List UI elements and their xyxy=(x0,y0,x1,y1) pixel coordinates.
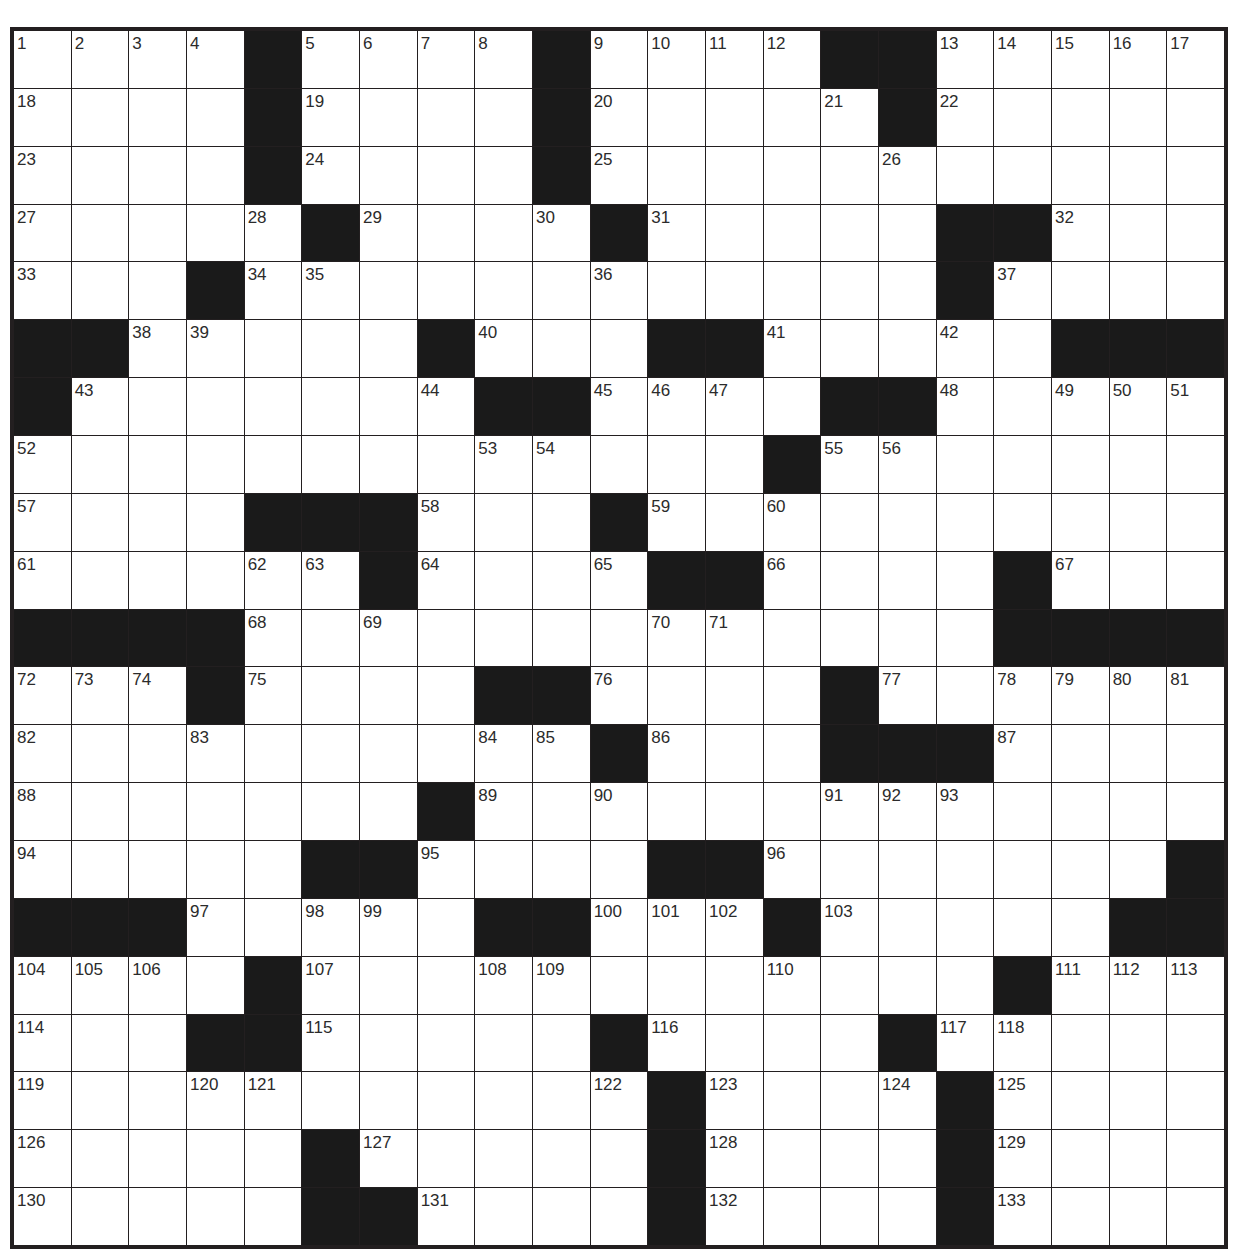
answer-square[interactable] xyxy=(302,378,359,435)
answer-square[interactable] xyxy=(821,1072,878,1129)
answer-square[interactable] xyxy=(1110,1072,1167,1129)
answer-square[interactable] xyxy=(360,667,417,724)
answer-square[interactable]: 72 xyxy=(14,667,71,724)
answer-square[interactable]: 2 xyxy=(72,31,129,88)
answer-square[interactable] xyxy=(764,725,821,782)
answer-square[interactable]: 17 xyxy=(1167,31,1224,88)
answer-square[interactable] xyxy=(72,725,129,782)
answer-square[interactable] xyxy=(937,899,994,956)
answer-square[interactable] xyxy=(1167,89,1224,146)
answer-square[interactable]: 111 xyxy=(1052,957,1109,1014)
answer-square[interactable] xyxy=(706,783,763,840)
answer-square[interactable] xyxy=(245,725,302,782)
answer-square[interactable] xyxy=(706,494,763,551)
answer-square[interactable]: 59 xyxy=(648,494,705,551)
answer-square[interactable] xyxy=(360,783,417,840)
answer-square[interactable]: 110 xyxy=(764,957,821,1014)
answer-square[interactable]: 1 xyxy=(14,31,71,88)
answer-square[interactable]: 132 xyxy=(706,1188,763,1245)
answer-square[interactable]: 31 xyxy=(648,205,705,262)
answer-square[interactable] xyxy=(1052,147,1109,204)
answer-square[interactable] xyxy=(1167,552,1224,609)
answer-square[interactable]: 36 xyxy=(591,262,648,319)
answer-square[interactable]: 91 xyxy=(821,783,878,840)
answer-square[interactable] xyxy=(994,147,1051,204)
answer-square[interactable] xyxy=(937,494,994,551)
answer-square[interactable] xyxy=(706,725,763,782)
answer-square[interactable]: 85 xyxy=(533,725,590,782)
answer-square[interactable] xyxy=(1167,783,1224,840)
answer-square[interactable] xyxy=(994,378,1051,435)
answer-square[interactable] xyxy=(821,494,878,551)
answer-square[interactable] xyxy=(1167,147,1224,204)
answer-square[interactable] xyxy=(302,667,359,724)
answer-square[interactable] xyxy=(1052,262,1109,319)
answer-square[interactable]: 90 xyxy=(591,783,648,840)
answer-square[interactable]: 7 xyxy=(418,31,475,88)
answer-square[interactable]: 18 xyxy=(14,89,71,146)
answer-square[interactable]: 56 xyxy=(879,436,936,493)
answer-square[interactable] xyxy=(821,205,878,262)
answer-square[interactable] xyxy=(187,436,244,493)
answer-square[interactable] xyxy=(129,147,186,204)
answer-square[interactable]: 32 xyxy=(1052,205,1109,262)
answer-square[interactable]: 58 xyxy=(418,494,475,551)
answer-square[interactable]: 38 xyxy=(129,320,186,377)
answer-square[interactable] xyxy=(1167,1188,1224,1245)
answer-square[interactable] xyxy=(879,1188,936,1245)
answer-square[interactable] xyxy=(764,378,821,435)
answer-square[interactable]: 45 xyxy=(591,378,648,435)
answer-square[interactable]: 42 xyxy=(937,320,994,377)
answer-square[interactable]: 88 xyxy=(14,783,71,840)
answer-square[interactable] xyxy=(72,841,129,898)
answer-square[interactable] xyxy=(129,725,186,782)
answer-square[interactable] xyxy=(821,1015,878,1072)
answer-square[interactable] xyxy=(994,494,1051,551)
answer-square[interactable] xyxy=(648,436,705,493)
answer-square[interactable] xyxy=(129,205,186,262)
answer-square[interactable] xyxy=(533,494,590,551)
answer-square[interactable] xyxy=(360,262,417,319)
answer-square[interactable]: 69 xyxy=(360,610,417,667)
answer-square[interactable]: 75 xyxy=(245,667,302,724)
answer-square[interactable] xyxy=(994,89,1051,146)
answer-square[interactable] xyxy=(72,205,129,262)
answer-square[interactable]: 74 xyxy=(129,667,186,724)
answer-square[interactable]: 79 xyxy=(1052,667,1109,724)
answer-square[interactable] xyxy=(245,783,302,840)
answer-square[interactable]: 35 xyxy=(302,262,359,319)
answer-square[interactable]: 97 xyxy=(187,899,244,956)
answer-square[interactable] xyxy=(533,841,590,898)
answer-square[interactable] xyxy=(937,552,994,609)
answer-square[interactable] xyxy=(187,205,244,262)
answer-square[interactable]: 102 xyxy=(706,899,763,956)
answer-square[interactable] xyxy=(1167,436,1224,493)
answer-square[interactable]: 34 xyxy=(245,262,302,319)
answer-square[interactable]: 21 xyxy=(821,89,878,146)
answer-square[interactable]: 37 xyxy=(994,262,1051,319)
answer-square[interactable] xyxy=(187,552,244,609)
answer-square[interactable] xyxy=(302,725,359,782)
answer-square[interactable] xyxy=(72,1130,129,1187)
answer-square[interactable]: 33 xyxy=(14,262,71,319)
answer-square[interactable]: 107 xyxy=(302,957,359,1014)
answer-square[interactable]: 10 xyxy=(648,31,705,88)
answer-square[interactable] xyxy=(879,610,936,667)
answer-square[interactable] xyxy=(72,262,129,319)
answer-square[interactable] xyxy=(533,1072,590,1129)
answer-square[interactable] xyxy=(187,1130,244,1187)
answer-square[interactable] xyxy=(1052,1015,1109,1072)
answer-square[interactable] xyxy=(879,552,936,609)
answer-square[interactable]: 20 xyxy=(591,89,648,146)
answer-square[interactable] xyxy=(418,147,475,204)
answer-square[interactable]: 11 xyxy=(706,31,763,88)
answer-square[interactable]: 116 xyxy=(648,1015,705,1072)
answer-square[interactable] xyxy=(418,610,475,667)
answer-square[interactable] xyxy=(706,957,763,1014)
answer-square[interactable]: 55 xyxy=(821,436,878,493)
answer-square[interactable]: 108 xyxy=(475,957,532,1014)
answer-square[interactable] xyxy=(418,436,475,493)
answer-square[interactable] xyxy=(418,957,475,1014)
answer-square[interactable] xyxy=(129,783,186,840)
answer-square[interactable] xyxy=(1167,1015,1224,1072)
